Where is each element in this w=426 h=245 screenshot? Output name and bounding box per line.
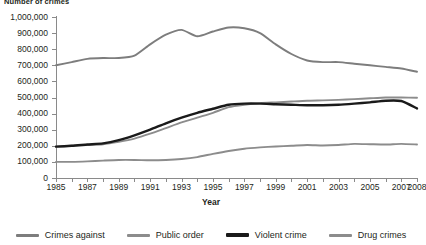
- y-tick-label: 500,000: [0, 93, 48, 102]
- x-tick-label: 1997: [235, 183, 254, 192]
- x-tick-label: 1993: [172, 183, 191, 192]
- legend-swatch-icon: [226, 233, 249, 237]
- legend-item[interactable]: Public order: [127, 231, 204, 240]
- y-tick-label: 300,000: [0, 125, 48, 134]
- y-tick-label: 800,000: [0, 45, 48, 54]
- legend-swatch-icon: [16, 234, 39, 237]
- y-tick-label: 1,000,000: [0, 13, 48, 22]
- x-tick-label: 2003: [329, 183, 348, 192]
- series-line: [56, 144, 417, 162]
- y-tick-label: 900,000: [0, 29, 48, 38]
- x-tick-mark: [354, 178, 355, 182]
- y-tick-label: 100,000: [0, 157, 48, 166]
- y-tick-label: 0: [0, 174, 48, 183]
- x-tick-label: 1999: [266, 183, 285, 192]
- x-tick-mark: [72, 178, 73, 182]
- x-tick-mark: [291, 178, 292, 182]
- legend-item[interactable]: Drug crimes: [329, 231, 407, 240]
- x-axis-line: [56, 178, 418, 179]
- x-tick-label: 1991: [141, 183, 160, 192]
- x-tick-mark: [260, 178, 261, 182]
- x-tick-label: 2008: [408, 183, 426, 192]
- y-tick-label: 400,000: [0, 109, 48, 118]
- series-lines: [56, 17, 417, 178]
- y-tick-label: 700,000: [0, 61, 48, 70]
- legend-swatch-icon: [127, 234, 150, 237]
- legend-item[interactable]: Crimes against: [16, 231, 105, 240]
- x-tick-mark: [386, 178, 387, 182]
- series-line: [56, 101, 417, 147]
- series-line: [56, 27, 417, 71]
- x-tick-mark: [166, 178, 167, 182]
- x-tick-mark: [229, 178, 230, 182]
- legend-item[interactable]: Violent crime: [226, 231, 307, 240]
- x-tick-label: 1987: [78, 183, 97, 192]
- legend-label: Public order: [156, 231, 204, 240]
- y-tick-label: 200,000: [0, 141, 48, 150]
- x-tick-label: 1985: [47, 183, 66, 192]
- x-tick-mark: [323, 178, 324, 182]
- x-tick-label: 2001: [298, 183, 317, 192]
- x-tick-mark: [197, 178, 198, 182]
- chart-legend: Crimes againstPublic orderViolent crimeD…: [0, 227, 422, 243]
- legend-label: Drug crimes: [358, 231, 407, 240]
- legend-swatch-icon: [329, 234, 352, 237]
- y-tick-label: 600,000: [0, 77, 48, 86]
- chart-title: Number of crimes: [4, 0, 69, 6]
- x-tick-label: 1989: [109, 183, 128, 192]
- legend-label: Violent crime: [255, 231, 307, 240]
- x-tick-mark: [103, 178, 104, 182]
- x-tick-label: 2005: [360, 183, 379, 192]
- legend-label: Crimes against: [45, 231, 105, 240]
- x-tick-label: 1995: [203, 183, 222, 192]
- x-tick-mark: [134, 178, 135, 182]
- x-axis-title: Year: [0, 197, 422, 207]
